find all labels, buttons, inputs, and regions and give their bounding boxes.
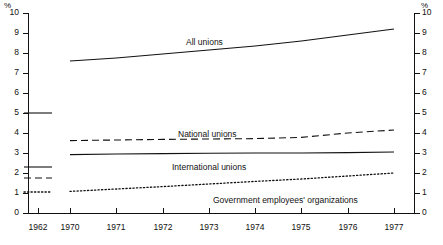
series-label-government-employees: Government employees' organizations [213, 195, 358, 205]
x-tick-label-1974: 1974 [235, 222, 275, 232]
x-tick-label-1972: 1972 [143, 222, 183, 232]
x-tick-label-1973: 1973 [189, 222, 229, 232]
x-tick-label-1971: 1971 [96, 222, 136, 232]
x-tick-label-1975: 1975 [281, 222, 321, 232]
series-label-national-unions: National unions [178, 129, 237, 139]
series-label-international-unions: International unions [172, 162, 246, 172]
x-tick-label-1970: 1970 [50, 222, 90, 232]
union-membership-chart: % % 001122334455667788991010 All unions … [0, 0, 443, 245]
series-label-all-unions: All unions [186, 37, 223, 47]
series-line-all-unions [70, 29, 394, 61]
x-tick-label-1977: 1977 [374, 222, 414, 232]
series-line-government-employees-organizations [70, 173, 394, 191]
series-line-international-unions [70, 152, 394, 155]
x-tick-label-1976: 1976 [328, 222, 368, 232]
